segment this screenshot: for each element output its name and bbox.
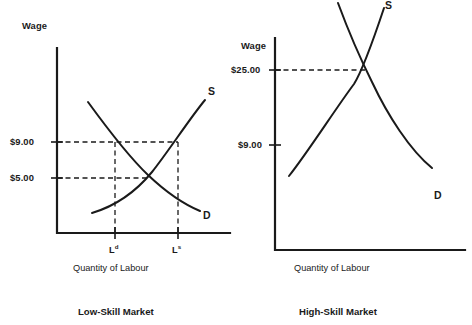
high-skill-price-label-9: $9.00 xyxy=(238,140,262,149)
high-skill-demand-curve-label: D xyxy=(434,190,442,201)
low-skill-demand-curve xyxy=(88,102,200,211)
low-skill-axes xyxy=(57,48,230,233)
high-skill-market-caption: High-Skill Market xyxy=(299,306,377,317)
low-skill-y-axis-label: Wage xyxy=(22,21,47,30)
low-skill-demand-curve-label: D xyxy=(203,210,211,221)
high-skill-plot xyxy=(236,0,472,325)
low-skill-quantity-supplied-label: Ls xyxy=(172,243,181,255)
high-skill-supply-curve-label: S xyxy=(385,0,392,11)
high-skill-x-axis-label: Quantity of Labour xyxy=(294,263,370,273)
low-skill-supply-curve-label: S xyxy=(208,86,215,97)
high-skill-supply-curve xyxy=(289,8,384,176)
low-skill-quantity-supplied-sup: s xyxy=(178,243,181,250)
high-skill-y-axis-label: Wage xyxy=(241,41,266,50)
low-skill-price-label-5: $5.00 xyxy=(10,173,34,182)
chart-high-skill-market: Wage $25.00 $9.00 S D Quantity of Labour… xyxy=(236,0,472,325)
low-skill-quantity-demanded-label: Ld xyxy=(109,243,118,255)
low-skill-plot xyxy=(0,0,236,325)
low-skill-quantity-demanded-sup: d xyxy=(115,243,119,250)
low-skill-supply-curve xyxy=(92,100,205,213)
low-skill-x-axis-label: Quantity of Labour xyxy=(73,263,149,273)
chart-low-skill-market: Wage $9.00 $5.00 Ld Ls S D Quantity of L… xyxy=(0,0,236,325)
low-skill-price-label-9: $9.00 xyxy=(10,137,34,146)
figure-canvas: Wage $9.00 $5.00 Ld Ls S D Quantity of L… xyxy=(0,0,472,325)
high-skill-price-label-25: $25.00 xyxy=(231,65,260,74)
low-skill-market-caption: Low-Skill Market xyxy=(78,306,154,317)
